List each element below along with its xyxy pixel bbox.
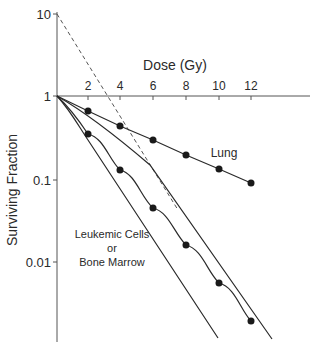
y-tick-label-10: 10 (37, 7, 51, 22)
leukemic-label-line2: or (107, 242, 117, 254)
leukemic-label-line1: Leukemic Cells (75, 228, 150, 240)
y-tick-label-0.01: 0.01 (26, 255, 51, 270)
extrapolation-dashed-line (57, 14, 178, 210)
y-axis-title: Surviving Fraction (4, 134, 20, 246)
lung-label: Lung (211, 146, 238, 160)
y-tick-label-1: 1 (44, 89, 51, 104)
x-axis-title: Dose (Gy) (143, 57, 207, 73)
x-tick-label-2: 2 (85, 79, 92, 93)
x-tick-label-10: 10 (212, 79, 226, 93)
x-tick-label-8: 8 (183, 79, 190, 93)
leukemic-label-line3: Bone Marrow (79, 256, 144, 268)
y-tick-label-0.1: 0.1 (33, 173, 51, 188)
x-tick-label-6: 6 (150, 79, 157, 93)
initial-slope-line (57, 96, 218, 338)
x-ticks (88, 96, 251, 100)
y-ticks (53, 14, 57, 262)
survival-curve-chart: 10 1 0.1 0.01 2 4 6 8 10 12 Dose (Gy) Su… (0, 0, 319, 354)
x-tick-label-12: 12 (244, 79, 258, 93)
x-tick-label-4: 4 (117, 79, 124, 93)
